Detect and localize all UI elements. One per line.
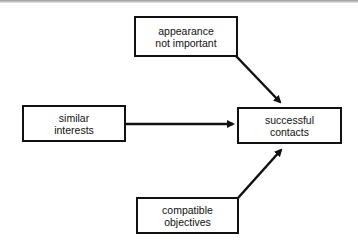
- node-label-line2: contacts: [270, 126, 309, 138]
- arrow-objectives-to-contacts: [238, 150, 281, 198]
- node-compatible-objectives: compatible objectives: [136, 197, 239, 234]
- node-label-line2: interests: [54, 124, 94, 136]
- node-similar-interests: similar interests: [22, 105, 126, 142]
- node-label-line1: successful: [265, 114, 314, 126]
- node-label-line1: similar: [59, 112, 89, 124]
- node-label-line1: appearance: [158, 25, 213, 37]
- node-successful-contacts: successful contacts: [237, 107, 342, 144]
- node-label-line2: objectives: [164, 216, 211, 228]
- node-appearance-not-important: appearance not important: [134, 16, 238, 57]
- arrow-appearance-to-contacts: [236, 56, 280, 102]
- node-label-line2: not important: [155, 37, 216, 49]
- node-label-line1: compatible: [162, 204, 213, 216]
